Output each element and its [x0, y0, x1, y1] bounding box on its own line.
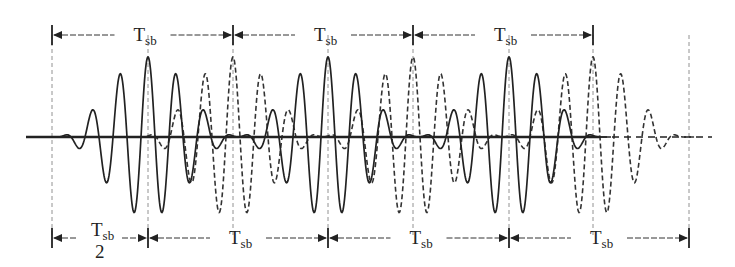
top-dimension-row: TsbTsbTsb — [52, 24, 593, 48]
arrowhead-icon — [223, 31, 232, 39]
arrowhead-icon — [149, 234, 158, 242]
bottom-dimension-row: Tsb2TsbTsbTsb — [52, 219, 689, 262]
period-label-denominator: 2 — [95, 241, 105, 262]
arrowhead-icon — [403, 31, 412, 39]
arrowhead-icon — [138, 234, 147, 242]
period-label: Tsb — [229, 227, 252, 251]
arrowhead-icon — [318, 234, 327, 242]
arrowhead-icon — [679, 234, 688, 242]
arrowhead-icon — [53, 234, 62, 242]
burst-waveform-diagram: TsbTsbTsb Tsb2TsbTsbTsb — [0, 0, 735, 267]
period-label: Tsb — [91, 219, 114, 243]
arrowhead-icon — [583, 31, 592, 39]
arrowhead-icon — [329, 234, 338, 242]
solid-waveform — [46, 57, 611, 213]
period-label: Tsb — [494, 24, 517, 48]
period-label: Tsb — [590, 227, 613, 251]
period-label: Tsb — [314, 24, 337, 48]
period-label: Tsb — [134, 24, 157, 48]
arrowhead-icon — [234, 31, 243, 39]
period-label: Tsb — [410, 227, 433, 251]
arrowhead-icon — [510, 234, 519, 242]
arrowhead-icon — [414, 31, 423, 39]
arrowhead-icon — [53, 31, 62, 39]
arrowhead-icon — [499, 234, 508, 242]
